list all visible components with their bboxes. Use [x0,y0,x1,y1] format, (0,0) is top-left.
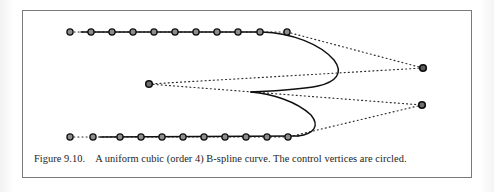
bspline-curve-upper-loop [251,32,338,92]
scanned-figure-page: Figure 9.10. A uniform cubic (order 4) B… [0,0,494,192]
control-vertex [285,134,291,140]
control-vertex [201,134,207,140]
control-vertex [264,134,270,140]
control-polygon-middle-left-to-lower-right [149,84,422,105]
figure-caption: Figure 9.10. A uniform cubic (order 4) B… [34,152,466,165]
control-polygon-top-to-upper-right [287,32,423,68]
control-vertex [222,134,228,140]
control-vertex [214,29,220,35]
control-vertex [151,29,157,35]
control-vertex [180,134,186,140]
control-vertex [257,29,263,35]
control-vertex [67,29,73,35]
control-vertex [138,134,144,140]
control-vertex [193,29,199,35]
control-vertex-lower-right [419,102,426,109]
control-polygon-lower-right-to-bottom-row [288,105,422,137]
control-vertex [109,29,115,35]
control-vertex [117,134,123,140]
control-vertex [88,29,94,35]
control-vertex [243,134,249,140]
control-vertex [67,134,73,140]
control-vertex-middle-left [146,81,153,88]
control-vertex-upper-right [420,65,427,72]
control-vertex [284,29,290,35]
control-vertex [159,134,165,140]
control-vertex [172,29,178,35]
bspline-curve-lower-loop [251,92,315,136]
figure-caption-label: Figure 9.10. [34,153,85,164]
control-vertex [130,29,136,35]
bspline-curve-solid [81,32,338,137]
control-vertex [235,29,241,35]
control-polygon-upper-right-to-middle-left [149,68,423,84]
figure-caption-text: A uniform cubic (order 4) B-spline curve… [95,153,406,164]
control-polygon-dotted [70,32,423,137]
control-vertex [90,134,96,140]
control-vertex-markers [67,29,426,140]
